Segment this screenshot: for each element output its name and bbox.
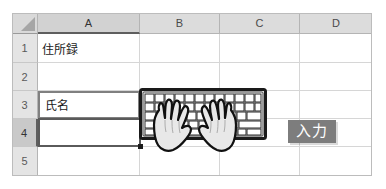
cell-d1[interactable] <box>300 34 372 63</box>
keyboard-illustration <box>139 88 267 140</box>
fill-handle[interactable] <box>138 144 143 149</box>
row-header-1[interactable]: 1 <box>12 34 38 63</box>
select-all-corner[interactable] <box>12 13 38 34</box>
cell-c1[interactable] <box>220 34 300 63</box>
cell-b1[interactable] <box>140 34 220 63</box>
cell-d3[interactable] <box>300 91 372 119</box>
row-header-3[interactable]: 3 <box>12 91 38 119</box>
select-all-triangle-icon <box>21 17 35 31</box>
cell-a2[interactable] <box>38 63 140 91</box>
screenshot-root: A B C D 1 2 3 4 5 住所録 氏名 <box>0 0 386 189</box>
cell-b5[interactable] <box>140 147 220 175</box>
row-header-2[interactable]: 2 <box>12 63 38 91</box>
column-header-c[interactable]: C <box>220 13 300 34</box>
cell-d5[interactable] <box>300 147 372 175</box>
input-callout-badge: 入力 <box>288 120 336 143</box>
column-header-a[interactable]: A <box>38 13 140 34</box>
column-header-b[interactable]: B <box>140 13 220 34</box>
cell-a4[interactable] <box>38 119 140 147</box>
row-header-5[interactable]: 5 <box>12 147 38 175</box>
column-header-d[interactable]: D <box>300 13 372 34</box>
cell-c2[interactable] <box>220 63 300 91</box>
row-header-4[interactable]: 4 <box>12 119 38 147</box>
cell-c5[interactable] <box>220 147 300 175</box>
cell-a3[interactable]: 氏名 <box>38 91 140 119</box>
cell-b2[interactable] <box>140 63 220 91</box>
cell-a1[interactable]: 住所録 <box>38 34 140 63</box>
cell-d2[interactable] <box>300 63 372 91</box>
cell-a5[interactable] <box>38 147 140 175</box>
